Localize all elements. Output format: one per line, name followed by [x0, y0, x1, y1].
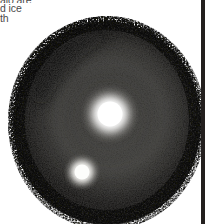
- nebula-illustration: [0, 0, 205, 224]
- primary-star-core: [80, 84, 140, 144]
- text-line-3: th: [0, 13, 62, 23]
- body-text-fragment: alo are d ice th: [0, 0, 62, 23]
- text-line-2: d ice: [0, 3, 62, 13]
- page-gutter-rule: [201, 0, 205, 224]
- astronomy-halftone-photo: [0, 0, 205, 224]
- scanned-page-fragment: alo are d ice th: [0, 0, 215, 224]
- page-margin-white: [205, 0, 215, 224]
- companion-star-core: [63, 153, 101, 191]
